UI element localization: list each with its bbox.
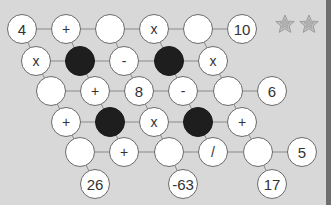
result-cell: 10 (227, 14, 257, 44)
blocked-cell (65, 46, 95, 76)
result-cell: 5 (287, 137, 317, 167)
operator-cell: / (198, 137, 228, 167)
rating-star-icon (275, 14, 295, 34)
blocked-cell (183, 107, 213, 137)
empty-input-cell[interactable] (213, 76, 243, 106)
operator-cell: + (51, 14, 81, 44)
operator-cell: + (51, 107, 81, 137)
blocked-cell (154, 46, 184, 76)
empty-input-cell[interactable] (95, 14, 125, 44)
operator-cell: x (139, 14, 169, 44)
operator-cell: - (168, 76, 198, 106)
empty-input-cell[interactable] (36, 76, 66, 106)
empty-input-cell[interactable] (154, 137, 184, 167)
number-cell: 4 (7, 14, 37, 44)
operator-cell: x (21, 46, 51, 76)
number-cell: 8 (124, 76, 154, 106)
result-cell: 26 (80, 169, 110, 199)
operator-cell: + (227, 107, 257, 137)
operator-cell: x (139, 107, 169, 137)
operator-cell: + (80, 76, 110, 106)
right-edge-bar (326, 0, 331, 205)
empty-input-cell[interactable] (65, 137, 95, 167)
puzzle-board: 4+x10x-x+8-6+x++/526-6317 (0, 0, 326, 205)
operator-cell: + (109, 137, 139, 167)
operator-cell: - (109, 46, 139, 76)
result-cell: 6 (257, 76, 287, 106)
result-cell: 17 (257, 169, 287, 199)
operator-cell: x (198, 46, 228, 76)
empty-input-cell[interactable] (183, 14, 213, 44)
rating-star-icon (299, 14, 319, 34)
result-cell: -63 (168, 169, 198, 199)
empty-input-cell[interactable] (243, 137, 273, 167)
blocked-cell (95, 107, 125, 137)
